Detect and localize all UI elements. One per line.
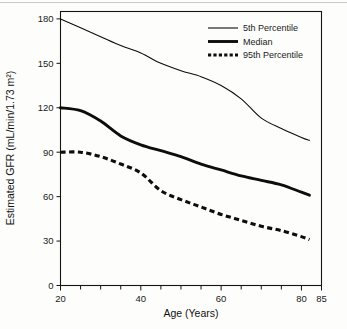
x-tick-label: 20 bbox=[55, 293, 66, 304]
scan-artifact-line bbox=[0, 2, 347, 3]
y-tick-label: 180 bbox=[38, 13, 54, 24]
series-curve-95th-percentile bbox=[61, 152, 310, 240]
y-tick-label: 90 bbox=[43, 147, 54, 158]
legend-label-3: 95th Percentile bbox=[243, 50, 303, 60]
x-axis-minor-tick-group bbox=[81, 286, 282, 290]
chart-legend: 5th PercentileMedian95th Percentile bbox=[208, 23, 303, 60]
x-tick-label: 40 bbox=[136, 293, 147, 304]
figure-container: 0306090120150180 2040608085 5th Percenti… bbox=[0, 0, 347, 329]
y-axis-tick-group bbox=[57, 19, 61, 286]
y-tick-label: 150 bbox=[38, 58, 54, 69]
x-tick-label: 85 bbox=[316, 293, 327, 304]
legend-label-1: 5th Percentile bbox=[243, 23, 298, 33]
y-tick-label: 0 bbox=[48, 280, 53, 291]
y-axis-title: Estimated GFR (mL/min/1.73 m²) bbox=[4, 71, 16, 226]
series-curve-median bbox=[61, 108, 310, 195]
x-axis-major-tick-group bbox=[61, 286, 322, 291]
x-tick-label: 60 bbox=[216, 293, 227, 304]
y-tick-label: 120 bbox=[38, 102, 54, 113]
y-tick-label: 30 bbox=[43, 235, 54, 246]
gfr-age-line-chart: 0306090120150180 2040608085 5th Percenti… bbox=[0, 0, 347, 329]
x-axis-title: Age (Years) bbox=[163, 307, 218, 319]
x-axis-tick-label-group: 2040608085 bbox=[55, 293, 327, 304]
legend-label-2: Median bbox=[243, 37, 273, 47]
x-tick-label: 80 bbox=[296, 293, 307, 304]
y-axis-tick-label-group: 0306090120150180 bbox=[38, 13, 54, 291]
y-tick-label: 60 bbox=[43, 191, 54, 202]
